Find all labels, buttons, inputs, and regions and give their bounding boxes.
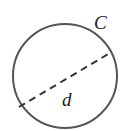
circle-diagram: C d (0, 0, 124, 131)
circle-shape (13, 24, 117, 128)
circumference-label: C (94, 12, 107, 33)
diameter-label: d (62, 89, 72, 110)
